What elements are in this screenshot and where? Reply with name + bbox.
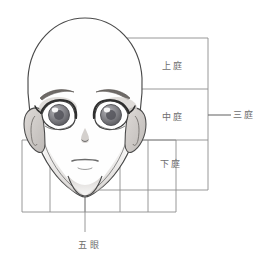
face-diagram-illustration xyxy=(0,0,271,266)
face-proportion-diagram: 上庭 中庭 下庭 三庭 五眼 xyxy=(0,0,271,266)
label-upper-third: 上庭 xyxy=(162,59,184,72)
label-lower-third: 下庭 xyxy=(160,157,182,170)
label-three-courts: 三庭 xyxy=(233,108,255,121)
eye-highlight-left xyxy=(52,108,58,113)
label-five-eyes: 五眼 xyxy=(78,238,102,251)
label-middle-third: 中庭 xyxy=(162,110,184,123)
eye-highlight-right xyxy=(104,108,110,113)
